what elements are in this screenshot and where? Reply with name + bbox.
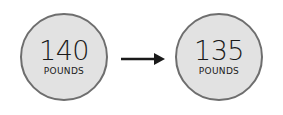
right-arrow-icon — [120, 52, 166, 66]
after-weight-value: 135 — [194, 37, 244, 65]
before-weight-value: 140 — [39, 37, 89, 65]
before-weight-unit: POUNDS — [44, 66, 84, 77]
before-weight-circle: 140 POUNDS — [20, 13, 108, 101]
after-weight-circle: 135 POUNDS — [175, 13, 263, 101]
after-weight-unit: POUNDS — [199, 66, 239, 77]
